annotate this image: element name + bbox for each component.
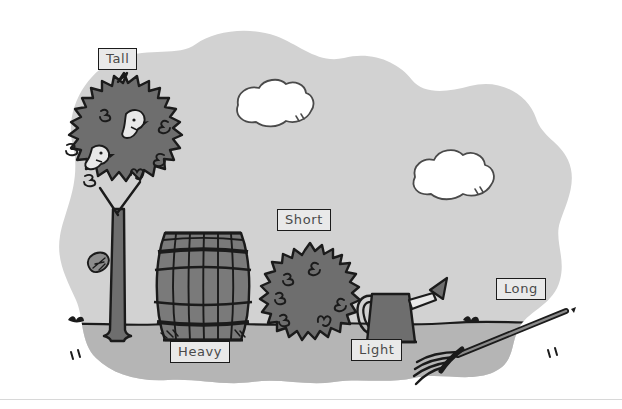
label-long-text: Long [504, 281, 538, 296]
garden-scene-svg [0, 0, 622, 409]
label-heavy-text: Heavy [178, 344, 222, 359]
label-light: Light [351, 339, 402, 361]
bottom-divider [0, 399, 622, 400]
label-short-text: Short [285, 212, 323, 227]
label-short: Short [277, 209, 331, 231]
label-long: Long [496, 278, 546, 300]
label-tall-text: Tall [106, 51, 129, 66]
illustration-canvas: Tall Short Heavy Light Long [0, 0, 622, 409]
label-tall: Tall [98, 48, 137, 70]
barrel [154, 233, 252, 340]
label-heavy: Heavy [170, 341, 230, 363]
label-light-text: Light [359, 342, 394, 357]
